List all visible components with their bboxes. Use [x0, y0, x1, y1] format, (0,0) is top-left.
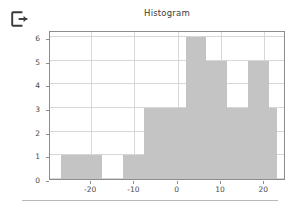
y-tick-mark — [46, 63, 49, 64]
y-tick-label: 1 — [14, 153, 40, 161]
y-tick-label: 6 — [14, 35, 40, 43]
divider-rule — [22, 200, 278, 201]
y-tick-label: 4 — [14, 82, 40, 90]
x-tick-label: -10 — [118, 185, 148, 194]
histogram-bar — [186, 37, 207, 179]
x-tick-mark — [133, 181, 134, 184]
y-axis: 0123456 — [0, 31, 49, 181]
histogram-figure: Histogram 0123456 -20-1001020 — [0, 0, 300, 196]
x-tick-label: 0 — [162, 185, 192, 194]
x-tick-mark — [220, 181, 221, 184]
y-tick-label: 2 — [14, 130, 40, 138]
histogram-bar — [123, 155, 144, 179]
y-tick-mark — [46, 86, 49, 87]
histogram-bar — [82, 155, 103, 179]
y-tick-mark — [46, 110, 49, 111]
y-tick-label: 5 — [14, 59, 40, 67]
histogram-bar — [248, 61, 269, 179]
y-tick-label: 3 — [14, 106, 40, 114]
y-tick-mark — [46, 39, 49, 40]
x-tick-label: 10 — [205, 185, 235, 194]
chart-title: Histogram — [49, 8, 285, 19]
y-tick-mark — [46, 157, 49, 158]
plot-area — [49, 31, 285, 180]
x-axis: -20-1001020 — [49, 181, 285, 197]
histogram-bar — [206, 61, 227, 179]
x-tick-mark — [177, 181, 178, 184]
histogram-bar — [165, 108, 186, 179]
y-tick-mark — [46, 134, 49, 135]
x-tick-label: 20 — [248, 185, 278, 194]
screen-root: Histogram 0123456 -20-1001020 — [0, 0, 300, 209]
gridline-horizontal — [50, 36, 284, 37]
x-tick-mark — [263, 181, 264, 184]
histogram-bar — [61, 155, 82, 179]
histogram-bar — [269, 108, 278, 179]
histogram-bar — [144, 108, 165, 179]
y-tick-label: 0 — [14, 177, 40, 185]
histogram-bar — [227, 108, 248, 179]
x-tick-mark — [90, 181, 91, 184]
x-tick-label: -20 — [75, 185, 105, 194]
